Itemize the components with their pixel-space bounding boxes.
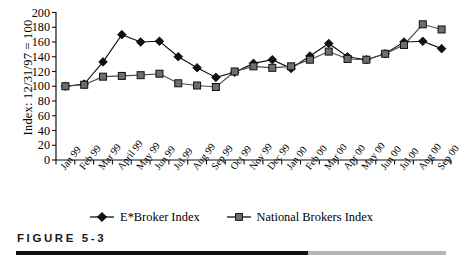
y-axis-tick-label: 80: [38, 94, 50, 108]
data-point-marker: [156, 70, 163, 77]
data-point-marker: [288, 63, 295, 70]
data-point-marker: [382, 50, 389, 57]
y-axis-tick-label: 100: [32, 79, 50, 93]
figure-container: Index: 12/31/97 = 100 200180160140120100…: [0, 0, 462, 261]
data-point-marker: [194, 82, 201, 89]
data-point-marker: [324, 39, 333, 48]
data-point-marker: [418, 37, 427, 46]
y-axis-tick-label: 200: [32, 6, 50, 20]
data-point-marker: [269, 64, 276, 71]
chart-legend: E*Broker IndexNational Brokers Index: [0, 206, 462, 228]
y-axis-tick-label: 140: [32, 50, 50, 64]
data-point-marker: [212, 73, 221, 82]
caption-rule: [16, 251, 446, 255]
y-axis-tick-label: 40: [38, 124, 50, 138]
data-point-marker: [62, 83, 69, 90]
y-axis-tick-label: 20: [38, 138, 50, 152]
data-point-marker: [363, 56, 370, 63]
legend-entry: National Brokers Index: [226, 211, 373, 223]
data-point-marker: [400, 41, 407, 48]
y-axis-tick-label: 60: [38, 109, 50, 123]
legend-diamond-icon: [89, 211, 115, 223]
data-point-marker: [136, 38, 145, 47]
y-axis-tick-label: 180: [32, 20, 50, 34]
data-point-marker: [419, 21, 426, 28]
data-point-marker: [118, 72, 125, 79]
data-point-marker: [175, 80, 182, 87]
legend-label: E*Broker Index: [120, 211, 199, 223]
legend-entry: E*Broker Index: [89, 211, 199, 223]
data-point-marker: [250, 63, 257, 70]
data-point-marker: [306, 56, 313, 63]
data-point-marker: [100, 73, 107, 80]
legend-square-icon: [226, 211, 252, 223]
figure-caption-text: FIGURE 5-3: [17, 232, 106, 244]
figure-caption-block: FIGURE 5-3: [0, 232, 462, 261]
data-point-marker: [137, 72, 144, 79]
data-point-marker: [193, 64, 202, 73]
series-markers: [61, 21, 446, 91]
data-point-marker: [437, 44, 446, 53]
data-point-marker: [231, 68, 238, 75]
data-point-marker: [438, 26, 445, 33]
data-point-marker: [212, 83, 219, 90]
data-point-marker: [268, 55, 277, 64]
data-point-marker: [325, 48, 332, 55]
y-axis-tick-label: 120: [32, 65, 50, 79]
y-axis-tick-labels: 200180160140120100806040200: [32, 6, 50, 168]
data-point-marker: [118, 30, 127, 39]
y-axis-tick-label: 160: [32, 35, 50, 49]
data-point-marker: [81, 81, 88, 88]
data-point-marker: [344, 55, 351, 62]
x-axis-tick-labels: Jan 99Feb 99Mar 99April 99May 99Jun 99Ju…: [0, 161, 462, 207]
legend-label: National Brokers Index: [257, 211, 373, 223]
